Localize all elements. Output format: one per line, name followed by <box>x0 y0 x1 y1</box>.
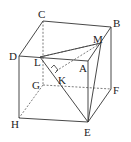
label-F: F <box>113 84 119 96</box>
edge-HE <box>19 118 88 122</box>
edge-CB <box>43 21 111 27</box>
label-E: E <box>84 126 91 138</box>
label-K: K <box>58 74 66 86</box>
label-C: C <box>38 8 45 20</box>
segment-ME <box>88 43 101 122</box>
cube-svg: C B D M L A K G F H E <box>0 0 131 142</box>
label-G: G <box>32 79 40 91</box>
label-L: L <box>34 56 41 68</box>
edge-DA <box>19 56 88 61</box>
cube-diagram: C B D M L A K G F H E <box>0 0 131 142</box>
label-H: H <box>11 118 19 130</box>
hidden-edge-GF <box>43 85 111 89</box>
label-A: A <box>79 62 87 74</box>
label-M: M <box>93 33 103 45</box>
edge-CD <box>19 21 43 56</box>
right-angle-marker <box>51 65 58 73</box>
label-D: D <box>9 50 17 62</box>
label-B: B <box>113 17 120 29</box>
edge-EF <box>88 89 111 122</box>
